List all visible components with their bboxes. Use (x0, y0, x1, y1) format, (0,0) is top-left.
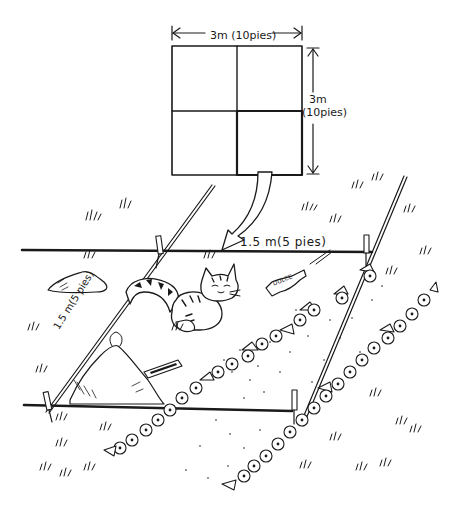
inset-plot-square (172, 46, 302, 175)
flower-row-left (104, 264, 376, 456)
quadrat-illustration (0, 0, 454, 506)
mound-center (70, 332, 164, 404)
stake-bottom-left (43, 392, 52, 422)
highlighted-quadrant (237, 111, 302, 175)
quadrat-top-edge-label: 1.5 m(5 pies) (240, 236, 327, 248)
cat (126, 264, 240, 332)
inset-width-label: 3m (10pies) (210, 30, 276, 41)
grass-tufts (28, 172, 431, 476)
inset-height-label-line2: (10pies) (302, 107, 347, 118)
flower-row-right (222, 282, 438, 490)
inset-height-label-line1: 3m (309, 94, 327, 105)
matchbox (144, 360, 182, 378)
